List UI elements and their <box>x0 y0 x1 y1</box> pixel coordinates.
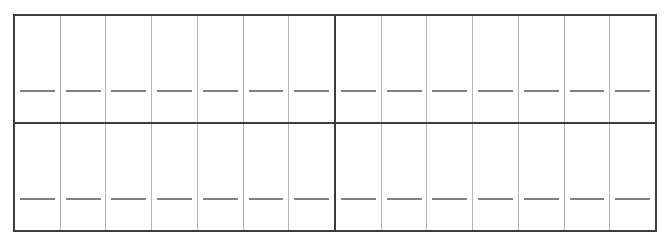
grid-cell[interactable] <box>15 16 60 122</box>
worksheet-grid <box>13 14 657 232</box>
writing-line <box>615 90 650 92</box>
grid-cell[interactable] <box>472 16 518 122</box>
grid-cell[interactable] <box>336 124 381 230</box>
grid-cell[interactable] <box>197 16 243 122</box>
writing-line <box>66 90 101 92</box>
writing-line <box>387 198 422 200</box>
grid-cell[interactable] <box>288 124 334 230</box>
writing-line <box>294 198 329 200</box>
writing-line <box>478 198 513 200</box>
grid-cell[interactable] <box>243 124 289 230</box>
writing-line <box>66 198 101 200</box>
grid-cell[interactable] <box>564 16 610 122</box>
writing-line <box>20 90 55 92</box>
writing-line <box>249 198 284 200</box>
writing-line <box>524 198 559 200</box>
grid-cell[interactable] <box>151 16 197 122</box>
writing-line <box>478 90 513 92</box>
grid-cell[interactable] <box>60 16 106 122</box>
writing-line <box>111 90 146 92</box>
writing-line <box>341 90 376 92</box>
grid-cell[interactable] <box>288 16 334 122</box>
writing-line <box>432 198 467 200</box>
grid-block <box>334 16 655 122</box>
grid-cell[interactable] <box>105 124 151 230</box>
grid-cell[interactable] <box>426 16 472 122</box>
grid-row <box>15 122 655 230</box>
grid-cell[interactable] <box>472 124 518 230</box>
writing-line <box>524 90 559 92</box>
grid-cell[interactable] <box>381 124 427 230</box>
grid-cell[interactable] <box>197 124 243 230</box>
writing-line <box>341 198 376 200</box>
writing-line <box>157 90 192 92</box>
grid-cell[interactable] <box>151 124 197 230</box>
grid-cell[interactable] <box>518 124 564 230</box>
grid-cell[interactable] <box>105 16 151 122</box>
grid-cell[interactable] <box>381 16 427 122</box>
writing-line <box>20 198 55 200</box>
grid-cell[interactable] <box>426 124 472 230</box>
writing-line <box>249 90 284 92</box>
grid-block <box>334 124 655 230</box>
grid-cell[interactable] <box>243 16 289 122</box>
writing-line <box>294 90 329 92</box>
grid-block <box>15 124 334 230</box>
grid-cell[interactable] <box>336 16 381 122</box>
grid-cell[interactable] <box>15 124 60 230</box>
writing-line <box>570 198 605 200</box>
writing-line <box>432 90 467 92</box>
grid-row <box>15 16 655 122</box>
writing-line <box>203 90 238 92</box>
grid-cell[interactable] <box>518 16 564 122</box>
grid-cell[interactable] <box>609 16 655 122</box>
grid-cell[interactable] <box>609 124 655 230</box>
writing-line <box>203 198 238 200</box>
writing-line <box>157 198 192 200</box>
grid-block <box>15 16 334 122</box>
grid-cell[interactable] <box>564 124 610 230</box>
grid-cell[interactable] <box>60 124 106 230</box>
writing-line <box>570 90 605 92</box>
writing-line <box>615 198 650 200</box>
writing-line <box>111 198 146 200</box>
writing-line <box>387 90 422 92</box>
